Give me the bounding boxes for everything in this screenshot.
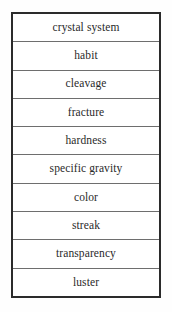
table-row: transparency [13,240,159,268]
page-background: crystal system habit cleavage fracture h… [0,0,172,312]
property-label: luster [73,277,99,289]
table-row: streak [13,212,159,240]
table-row: crystal system [13,14,159,42]
table-row: hardness [13,127,159,155]
table-row: luster [13,269,159,296]
property-label: color [74,192,98,204]
mineral-properties-table: crystal system habit cleavage fracture h… [11,12,161,298]
property-label: transparency [56,248,116,260]
table-row: habit [13,42,159,70]
table-row: specific gravity [13,155,159,183]
property-label: crystal system [53,22,120,34]
property-label: cleavage [65,78,106,90]
property-label: streak [72,220,100,232]
table-row: color [13,184,159,212]
table-row: cleavage [13,71,159,99]
property-label: fracture [68,107,105,119]
table-row: fracture [13,99,159,127]
property-label: hardness [65,135,106,147]
property-label: specific gravity [50,163,123,175]
property-label: habit [74,50,98,62]
